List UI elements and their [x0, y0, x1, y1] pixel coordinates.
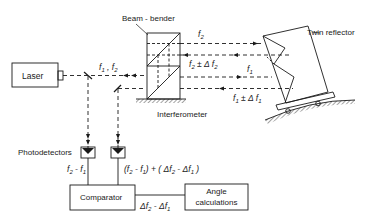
surface-hatch	[265, 100, 355, 124]
photodetector-2	[111, 147, 125, 158]
interferometer-label: Interferometer	[157, 110, 208, 119]
beam-arrow-icon	[131, 74, 136, 78]
twin-reflector-label: Twin reflector	[307, 28, 355, 37]
beam-arrow-icon	[116, 140, 120, 145]
beam-arrow-icon	[86, 134, 90, 139]
photodetectors-label: Photodetectors	[18, 148, 72, 157]
beam-arrow-icon	[219, 87, 224, 91]
beam-arrow-icon	[233, 53, 238, 57]
beam-arrow-icon	[116, 134, 120, 139]
angle-calculations-label-2: calculations	[196, 198, 238, 207]
angle-calculations-label-1: Angle	[206, 187, 227, 196]
laser-output-frequencies: f1 , f2	[99, 62, 118, 73]
beam-f2-label: f2	[198, 29, 204, 40]
beam-bender-leader	[136, 24, 148, 35]
beam-arrow-icon	[237, 75, 242, 79]
beam-f2-return-label: f2 ± Δ f2	[189, 59, 218, 70]
beam-f1-return-label: f1 ± Δ f1	[233, 93, 262, 104]
photodetector-1	[81, 147, 95, 158]
diagram-canvas: Laser Beam - bender Twin reflector Inter…	[0, 0, 366, 224]
beam-arrow-icon	[183, 53, 188, 57]
beam-bender-mirror-upper	[147, 33, 180, 66]
twin-reflector	[263, 26, 355, 124]
beam-f1-label: f1	[247, 64, 253, 75]
beam-arrow-icon	[86, 140, 90, 145]
beam-bender	[136, 33, 186, 103]
laser-aperture	[58, 71, 63, 80]
measurement-signal-label: (f2 - f1) + ( Δf2 - Δf1 )	[124, 164, 199, 175]
twin-reflector-body	[263, 26, 328, 103]
twin-reflector-prisms	[263, 36, 294, 103]
beam-bender-label: Beam - bender	[122, 14, 175, 23]
beam-bender-mirror-lower	[147, 66, 180, 99]
photodiode-icon	[112, 148, 124, 154]
reference-signal-label: f2 - f1	[67, 164, 86, 175]
beam-arrow-icon	[253, 42, 258, 46]
laser-label: Laser	[22, 71, 43, 81]
comparator-label: Comparator	[80, 193, 123, 202]
difference-signal-label: Δf2 - Δf1	[139, 201, 170, 212]
beam-arrow-icon	[123, 74, 128, 78]
diagram-svg: Laser Beam - bender Twin reflector Inter…	[0, 0, 366, 224]
beam-bender-ground	[136, 99, 186, 103]
photodiode-icon	[82, 148, 94, 154]
